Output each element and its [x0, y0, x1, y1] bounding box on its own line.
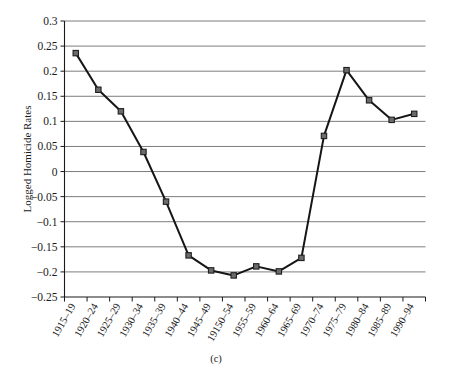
data-point-marker	[254, 264, 259, 269]
data-point-marker	[163, 199, 168, 204]
y-tick-label: −0.2	[37, 266, 58, 278]
data-line	[76, 53, 414, 275]
data-point-marker	[73, 50, 78, 55]
data-point-marker	[344, 67, 349, 72]
data-point-marker	[96, 87, 101, 92]
y-tick-label: 0.15	[37, 90, 57, 102]
figure-caption: (c)	[210, 353, 222, 365]
data-point-marker	[231, 273, 236, 278]
data-point-marker	[186, 253, 191, 258]
x-axis-ticks-group: 1915–191920–241925–291930–341935–391940–…	[50, 297, 426, 343]
data-point-marker	[389, 117, 394, 122]
data-series-group	[76, 53, 414, 275]
data-point-marker	[412, 111, 417, 116]
data-point-marker	[299, 255, 304, 260]
data-point-marker	[321, 133, 326, 138]
y-axis-title-group: Logged Homicide Rates	[21, 106, 33, 213]
y-tick-label: 0.1	[43, 115, 58, 127]
figure-panel-c: 0.30.250.20.150.10.050−0.05−0.1−0.15−0.2…	[0, 0, 457, 379]
y-tick-label: −0.15	[31, 241, 58, 253]
y-tick-label: 0	[52, 166, 58, 178]
y-tick-label: 0.25	[37, 40, 57, 52]
y-tick-label: 0.3	[43, 15, 58, 27]
y-tick-label: −0.05	[31, 191, 58, 203]
data-point-marker	[366, 98, 371, 103]
data-point-marker	[208, 268, 213, 273]
y-axis-title: Logged Homicide Rates	[21, 106, 33, 213]
data-markers-group	[73, 50, 417, 278]
homicide-rates-line-chart: 0.30.250.20.150.10.050−0.05−0.1−0.15−0.2…	[0, 0, 457, 379]
y-tick-label: −0.1	[37, 216, 58, 228]
y-tick-label: 0.2	[43, 65, 58, 77]
y-tick-label: 0.05	[37, 140, 57, 152]
data-point-marker	[141, 149, 146, 154]
y-tick-label: −0.25	[31, 291, 58, 303]
gridlines-group	[65, 21, 426, 272]
axis-group	[65, 21, 426, 297]
data-point-marker	[118, 109, 123, 114]
y-axis-ticks-group: 0.30.250.20.150.10.050−0.05−0.1−0.15−0.2…	[31, 15, 65, 303]
data-point-marker	[276, 269, 281, 274]
